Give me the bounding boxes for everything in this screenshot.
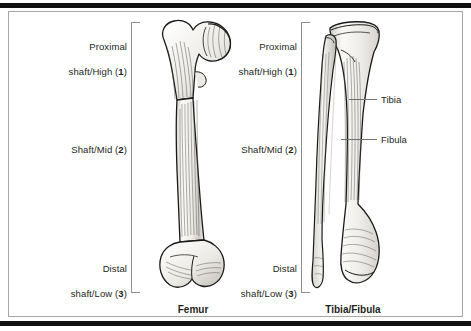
tibfib-proximal-line2: shaft/High (: [239, 66, 289, 77]
tibfib-region-label-distal: Distal shaft/Low (3): [241, 251, 297, 300]
femur-mid-paren: ): [124, 144, 127, 155]
tibfib-distal-line1: Distal: [273, 263, 297, 274]
tibfib-region-label-mid: Shaft/Mid (2): [241, 132, 297, 156]
tibia-leader-line: [349, 99, 377, 100]
fibula-leader-line: [341, 139, 377, 140]
femur-proximal-paren: ): [124, 66, 127, 77]
tibfib-proximal-paren: ): [294, 66, 297, 77]
top-rule: [0, 3, 471, 8]
tibia-fibula-illustration: [310, 14, 394, 302]
tibfib-distal-paren: ): [294, 288, 297, 299]
femur-region-label-proximal: Proximal shaft/High (1): [69, 29, 127, 78]
anatomy-figure: Proximal shaft/High (1) Shaft/Mid (2) Di…: [0, 0, 471, 331]
tibfib-proximal-line1: Proximal: [259, 41, 297, 52]
femur-region-label-distal: Distal shaft/Low (3): [71, 251, 127, 300]
femur-distal-line1: Distal: [103, 263, 127, 274]
femur-distal-line2: shaft/Low (: [71, 288, 119, 299]
femur-proximal-line1: Proximal: [89, 41, 127, 52]
tibia-fibula-caption: Tibia/Fibula: [303, 304, 403, 315]
fibula-label: Fibula: [381, 134, 407, 145]
femur-region-label-mid: Shaft/Mid (2): [71, 132, 127, 156]
tibfib-mid-text: Shaft/Mid (: [241, 144, 288, 155]
tibia-label: Tibia: [381, 94, 401, 105]
femur-proximal-line2: shaft/High (: [69, 66, 119, 77]
femur-mid-text: Shaft/Mid (: [71, 144, 118, 155]
tibfib-region-bracket: [301, 22, 310, 293]
femur-region-bracket: [131, 22, 140, 293]
tibfib-mid-paren: ): [294, 144, 297, 155]
femur-distal-paren: ): [124, 288, 127, 299]
bottom-rule: [0, 321, 471, 326]
tibfib-region-label-proximal: Proximal shaft/High (1): [239, 29, 297, 78]
femur-illustration: [146, 14, 240, 302]
tibfib-distal-line2: shaft/Low (: [241, 288, 289, 299]
femur-caption: Femur: [148, 304, 238, 315]
